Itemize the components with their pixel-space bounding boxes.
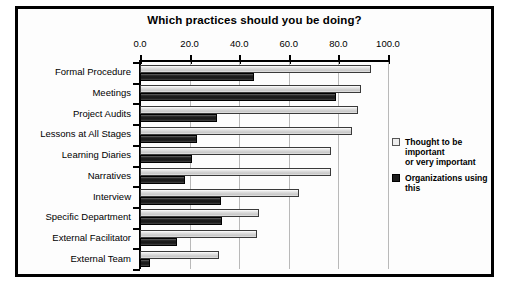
y-tick (133, 62, 140, 64)
bar-using (140, 73, 254, 81)
y-tick (133, 166, 140, 168)
chart-figure: Which practices should you be doing? 0.0… (0, 0, 509, 288)
gridline (388, 62, 389, 269)
legend-item-using: Organizations using this (392, 173, 504, 193)
y-tick (133, 103, 140, 105)
category-label: External Facilitator (3, 232, 131, 243)
bar-important (140, 127, 352, 135)
category-label: Formal Procedure (3, 66, 131, 77)
legend-item-important: Thought to be important or very importan… (392, 137, 504, 167)
category-label: External Team (3, 253, 131, 264)
x-tick-label: 80.0 (318, 38, 358, 49)
category-label: Specific Department (3, 211, 131, 222)
bar-using (140, 238, 177, 246)
legend-label-using: Organizations using this (405, 173, 504, 193)
y-tick (133, 186, 140, 188)
legend-swatch-light (392, 138, 400, 146)
x-tick-label: 100.0 (368, 38, 408, 49)
category-label: Lessons at All Stages (3, 128, 131, 139)
bar-using (140, 114, 217, 122)
y-tick (133, 145, 140, 147)
bar-important (140, 106, 358, 114)
bar-important (140, 147, 331, 155)
legend-swatch-dark (392, 174, 400, 182)
bar-important (140, 65, 371, 73)
x-tick-label: 60.0 (269, 38, 309, 49)
bar-using (140, 197, 221, 205)
x-tick-label: 40.0 (219, 38, 259, 49)
y-tick (133, 269, 140, 271)
y-tick (133, 228, 140, 230)
category-label: Interview (3, 191, 131, 202)
bar-important (140, 189, 299, 197)
category-label: Learning Diaries (3, 149, 131, 160)
y-tick (133, 248, 140, 250)
bar-using (140, 93, 336, 101)
bar-using (140, 135, 197, 143)
bar-using (140, 259, 150, 267)
chart-legend: Thought to be important or very importan… (392, 137, 504, 199)
y-tick (133, 207, 140, 209)
category-label: Meetings (3, 87, 131, 98)
bar-important (140, 230, 257, 238)
bar-using (140, 155, 192, 163)
legend-label-important: Thought to be important or very importan… (405, 137, 504, 167)
x-tick-label: 20.0 (170, 38, 210, 49)
bar-important (140, 251, 219, 259)
bar-important (140, 168, 331, 176)
bar-using (140, 217, 222, 225)
x-tick-label: 0.0 (120, 38, 160, 49)
category-label: Project Audits (3, 108, 131, 119)
bar-using (140, 176, 185, 184)
bar-important (140, 209, 259, 217)
y-tick (133, 83, 140, 85)
chart-title: Which practices should you be doing? (0, 14, 509, 26)
plot-area (140, 62, 388, 269)
bar-important (140, 85, 361, 93)
y-tick (133, 124, 140, 126)
category-label: Narratives (3, 170, 131, 181)
